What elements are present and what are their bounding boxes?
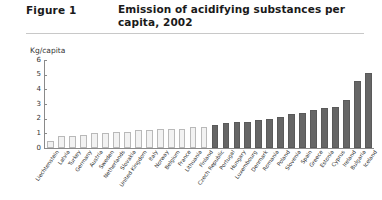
bar (244, 122, 251, 148)
bar-slot (155, 60, 166, 148)
bar-slot (78, 60, 89, 148)
bar (332, 107, 339, 148)
x-axis-category-labels: LiechtensteinLatviaTurkeyGermanyAustriaS… (45, 149, 380, 200)
bar-slot (363, 60, 374, 148)
y-axis-tick-label: 4 (30, 86, 41, 93)
chart-plot-area: Kg/capita 0123456 LiechtensteinLatviaTur… (0, 36, 382, 200)
y-axis-tick-label: 0 (30, 145, 41, 152)
bar (146, 130, 153, 148)
bar (190, 127, 197, 148)
bar-slot (199, 60, 210, 148)
bar-series (45, 60, 374, 148)
bar (168, 129, 175, 148)
bar-slot (264, 60, 275, 148)
bar-slot (122, 60, 133, 148)
bar (266, 119, 273, 148)
bar (212, 125, 219, 148)
y-axis-tick-label: 1 (30, 130, 41, 137)
bar-slot (144, 60, 155, 148)
bar-slot (330, 60, 341, 148)
bar-slot (67, 60, 78, 148)
bar (299, 113, 306, 148)
bar-slot (297, 60, 308, 148)
header-divider (26, 33, 364, 34)
bar-slot (111, 60, 122, 148)
bar-slot (220, 60, 231, 148)
bar (102, 133, 109, 148)
bar (277, 117, 284, 148)
bar-slot (308, 60, 319, 148)
figure-title: Emission of acidifying substances per ca… (118, 3, 364, 29)
bar (234, 122, 241, 148)
bar (321, 108, 328, 148)
bar (223, 123, 230, 148)
figure-header: Figure 1 Emission of acidifying substanc… (0, 0, 382, 34)
bar (91, 133, 98, 148)
bar (343, 100, 350, 148)
figure-label: Figure 1 (26, 4, 77, 16)
x-axis-category-label: Liechtenstein (35, 149, 61, 182)
bar (69, 136, 76, 148)
bar-slot (253, 60, 264, 148)
bar (201, 127, 208, 148)
y-axis-tick-label: 3 (30, 101, 41, 108)
bar (135, 130, 142, 148)
bar-slot (352, 60, 363, 148)
y-axis-tick-label: 5 (30, 71, 41, 78)
bar-slot (89, 60, 100, 148)
bar (113, 132, 120, 148)
bar (80, 135, 87, 148)
bar-slot (242, 60, 253, 148)
bar-slot (166, 60, 177, 148)
bar (365, 73, 372, 148)
bar (179, 129, 186, 148)
bar (47, 141, 54, 148)
bar (58, 136, 65, 148)
y-axis-tick-label: 2 (30, 115, 41, 122)
bar-slot (341, 60, 352, 148)
bar-slot (56, 60, 67, 148)
bar-slot (45, 60, 56, 148)
bar-slot (231, 60, 242, 148)
bar-slot (188, 60, 199, 148)
bar-slot (177, 60, 188, 148)
bar-slot (133, 60, 144, 148)
bar (255, 120, 262, 148)
bar-slot (275, 60, 286, 148)
bar (124, 132, 131, 148)
bar-slot (210, 60, 221, 148)
y-axis-unit-label: Kg/capita (30, 46, 65, 55)
bar (288, 114, 295, 148)
figure-root: Figure 1 Emission of acidifying substanc… (0, 0, 382, 200)
bar (310, 110, 317, 148)
bar-slot (319, 60, 330, 148)
bar-slot (100, 60, 111, 148)
bar-slot (286, 60, 297, 148)
y-axis-tick-label: 6 (30, 57, 41, 64)
bar (354, 81, 361, 148)
bar (157, 129, 164, 148)
